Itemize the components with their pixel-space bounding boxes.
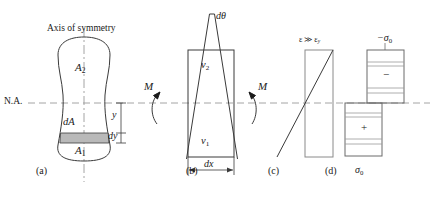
panel-c-caption: (c) (268, 166, 279, 176)
strain-note-label: ε ≫ εy (299, 36, 320, 45)
dimension-dx-label: dx (204, 159, 213, 169)
nu-upper-label: v2 (201, 60, 209, 72)
area-upper-label: A2 (75, 62, 85, 74)
dimension-dy-label: dy (108, 131, 117, 141)
sign-tension-label: + (361, 122, 367, 133)
dimension-dx-head-right (227, 168, 233, 173)
sign-compression-label: − (383, 69, 389, 80)
figure-root: Axis of symmetry N.A. A2 dA A1 y dy (a) … (0, 0, 430, 197)
panel-a-caption: (a) (36, 166, 47, 176)
panel-b-caption: (b) (186, 166, 198, 176)
nu-lower-label: v1 (201, 136, 209, 148)
stress-top-label: −σ0 (377, 33, 392, 44)
stress-bottom-label: σ0 (355, 165, 363, 176)
neutral-axis-label: N.A. (4, 97, 22, 107)
moment-left-label: M (144, 81, 153, 92)
moment-arrow-right-head (249, 92, 256, 99)
area-lower-label: A1 (75, 145, 85, 157)
dimension-y-label: y (112, 110, 116, 120)
differential-area-strip (60, 133, 109, 143)
panel-d-caption: (d) (325, 166, 337, 176)
strain-rectangle (305, 50, 333, 157)
dtheta-label: dθ (216, 11, 226, 21)
differential-area-label: dA (63, 117, 75, 128)
moment-right-label: M (258, 81, 267, 92)
axis-of-symmetry-label: Axis of symmetry (47, 24, 116, 34)
